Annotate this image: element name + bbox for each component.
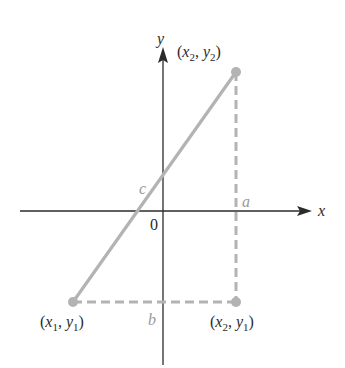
distance-diagram: x y 0 c a b (x2, y2) (x1, y1) (x2, y1)	[0, 0, 345, 368]
point-x2-y1	[231, 297, 241, 307]
point-x1-y1	[68, 297, 78, 307]
x-axis-label: x	[317, 202, 325, 219]
y-axis	[158, 47, 168, 365]
y-axis-label: y	[155, 30, 165, 48]
side-b-label: b	[148, 311, 156, 328]
side-a-label: a	[242, 193, 250, 210]
label-x2-y1: (x2, y1)	[210, 313, 254, 333]
point-x2-y2	[231, 67, 241, 77]
side-c-label: c	[139, 180, 146, 197]
label-x2-y2: (x2, y2)	[177, 43, 221, 63]
hypotenuse-c	[73, 72, 236, 302]
origin-label: 0	[150, 216, 158, 233]
diagram-canvas: x y 0 c a b (x2, y2) (x1, y1) (x2, y1)	[0, 0, 345, 368]
x-axis	[20, 206, 312, 216]
label-x1-y1: (x1, y1)	[40, 313, 84, 333]
